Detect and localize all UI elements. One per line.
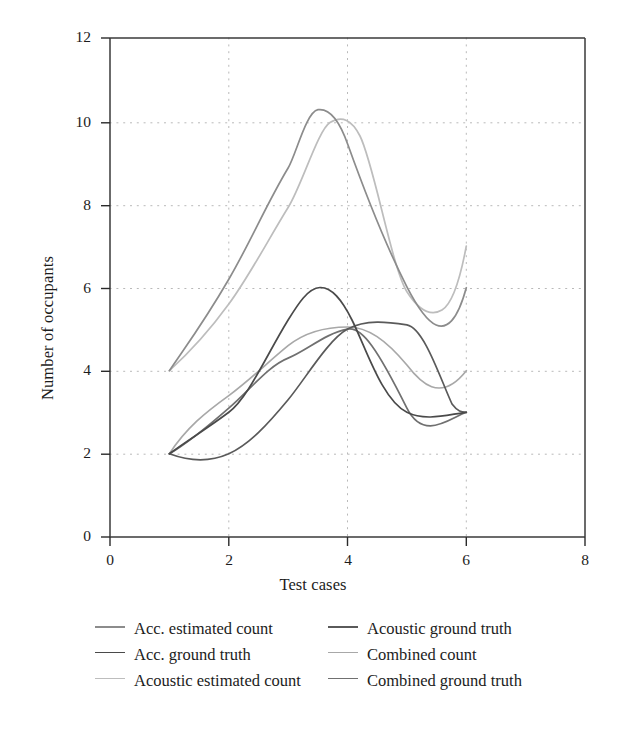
legend-item-label: Combined count [367,644,477,666]
figure-container: 0 2 4 6 8 10 12 0 2 4 6 8 Number of occu… [0,0,626,750]
legend-line-icon [328,672,358,686]
legend-item-combined-count[interactable]: Combined count [328,644,563,666]
legend-line-icon [95,646,125,660]
x-tick-label-8: 8 [567,551,603,569]
x-tick-label-0: 0 [92,551,128,569]
grid-vertical [229,38,466,537]
series-line-acoustic-ground-truth [169,322,466,460]
legend-item-label: Combined ground truth [367,670,522,692]
legend-item-acoustic-estimated-count[interactable]: Acoustic estimated count [95,670,310,692]
legend-item-acc-ground-truth[interactable]: Acc. ground truth [95,644,310,666]
series-line-combined-count [169,327,466,454]
y-tick-label-10: 10 [55,113,91,131]
x-axis-title: Test cases [0,575,626,595]
y-tick-label-6: 6 [55,279,91,297]
y-axis-title: Number of occupants [38,256,58,400]
y-tick-label-4: 4 [55,361,91,379]
legend-line-icon [95,620,125,634]
legend-item-label: Acc. estimated count [134,618,273,640]
legend-item-combined-ground-truth[interactable]: Combined ground truth [328,670,563,692]
legend-item-label: Acc. ground truth [134,644,251,666]
legend-line-icon [328,646,358,660]
legend-line-icon [95,672,125,686]
legend-item-acc-estimated-count[interactable]: Acc. estimated count [95,618,310,640]
legend-item-acoustic-ground-truth[interactable]: Acoustic ground truth [328,618,563,640]
series-line-acoustic-estimated-count [169,119,466,371]
series-line-combined-ground-truth [169,329,466,454]
legend-line-icon [328,620,358,634]
y-tick-label-12: 12 [55,28,91,46]
legend-item-label: Acoustic estimated count [134,670,301,692]
x-axis-ticks [110,537,585,546]
y-tick-label-8: 8 [55,196,91,214]
x-tick-label-4: 4 [330,551,366,569]
y-tick-label-0: 0 [55,527,91,545]
chart-legend: Acc. estimated count Acoustic ground tru… [95,618,565,691]
y-tick-label-2: 2 [55,444,91,462]
x-tick-label-6: 6 [448,551,484,569]
x-tick-label-2: 2 [211,551,247,569]
grid-horizontal [110,123,585,454]
legend-item-label: Acoustic ground truth [367,618,512,640]
y-axis-ticks [101,38,110,537]
